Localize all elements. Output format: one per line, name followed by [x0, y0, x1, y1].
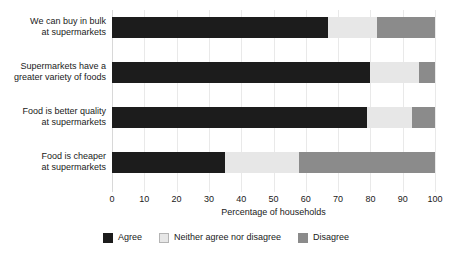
category-label: We can buy in bulk at supermarkets: [0, 16, 106, 38]
bar-segment: [419, 62, 435, 83]
x-axis-tick-label: 90: [398, 194, 408, 205]
bar-segment: [370, 62, 418, 83]
legend-label: Neither agree nor disagree: [174, 232, 281, 243]
chart-legend: AgreeNeither agree nor disagreeDisagree: [0, 232, 452, 243]
plot-area: [112, 10, 435, 192]
x-axis-tick-label: 60: [301, 194, 311, 205]
bar-segment: [112, 62, 370, 83]
legend-item[interactable]: Agree: [103, 232, 142, 243]
category-axis-labels: We can buy in bulk at supermarkets Super…: [0, 10, 106, 192]
x-axis-tick-label: 50: [268, 194, 278, 205]
stacked-bar-chart: We can buy in bulk at supermarkets Super…: [0, 0, 452, 258]
bar-row: [112, 152, 435, 173]
category-label-line: greater variety of foods: [0, 72, 106, 83]
bar-series-group: [112, 10, 435, 192]
x-axis-title: Percentage of households: [112, 206, 435, 218]
bar-segment: [112, 152, 225, 173]
bar-segment: [112, 107, 367, 128]
legend-swatch-icon: [298, 233, 308, 243]
legend-swatch-icon: [159, 233, 169, 243]
category-label-line: at supermarkets: [0, 117, 106, 128]
category-label: Supermarkets have a greater variety of f…: [0, 61, 106, 83]
x-axis-tick-label: 80: [365, 194, 375, 205]
bar-segment: [225, 152, 299, 173]
legend-label: Disagree: [313, 232, 349, 243]
bar-segment: [112, 17, 328, 38]
legend-item[interactable]: Neither agree nor disagree: [159, 232, 281, 243]
category-label: Food is better quality at supermarkets: [0, 106, 106, 128]
bar-row: [112, 62, 435, 83]
category-label-line: Food is cheaper: [0, 151, 106, 162]
legend-swatch-icon: [103, 233, 113, 243]
gridline: [435, 10, 436, 192]
category-label-line: Food is better quality: [0, 106, 106, 117]
x-axis-tick-label: 40: [236, 194, 246, 205]
category-label-line: We can buy in bulk: [0, 16, 106, 27]
x-axis-tick-label: 30: [204, 194, 214, 205]
bar-segment: [412, 107, 435, 128]
bar-row: [112, 17, 435, 38]
category-label-line: at supermarkets: [0, 162, 106, 173]
bar-segment: [328, 17, 376, 38]
x-axis-tick-label: 10: [139, 194, 149, 205]
x-axis-tick-label: 100: [427, 194, 442, 205]
category-label: Food is cheaper at supermarkets: [0, 151, 106, 173]
legend-item[interactable]: Disagree: [298, 232, 349, 243]
legend-label: Agree: [118, 232, 142, 243]
x-axis-tick-label: 0: [109, 194, 114, 205]
category-label-line: Supermarkets have a: [0, 61, 106, 72]
x-axis-tick-label: 70: [333, 194, 343, 205]
bar-row: [112, 107, 435, 128]
category-label-line: at supermarkets: [0, 27, 106, 38]
bar-segment: [299, 152, 435, 173]
x-axis-tick-label: 20: [172, 194, 182, 205]
bar-segment: [377, 17, 435, 38]
bar-segment: [367, 107, 412, 128]
